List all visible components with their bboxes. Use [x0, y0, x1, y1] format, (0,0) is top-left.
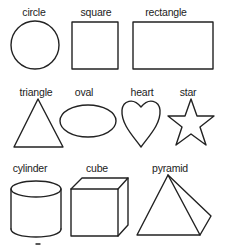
cylinder-shape — [11, 181, 61, 237]
heart-shape — [122, 101, 160, 147]
rectangle-shape — [133, 22, 213, 69]
oval-shape — [60, 105, 116, 137]
star-shape — [168, 99, 214, 145]
cube-shape — [71, 178, 128, 236]
triangle-shape — [14, 99, 63, 147]
circle-shape — [11, 21, 59, 69]
square-shape — [72, 22, 118, 69]
shapes-canvas — [0, 0, 228, 246]
pyramid-shape — [137, 175, 211, 235]
shapes-chart: circle square rectangle triangle oval he… — [0, 0, 228, 246]
